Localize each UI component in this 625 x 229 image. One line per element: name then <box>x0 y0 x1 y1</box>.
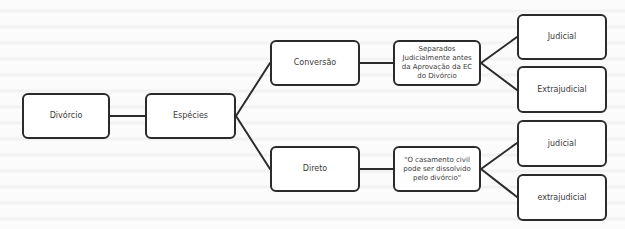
node-label: Espécies <box>173 111 208 121</box>
edge-casamento-judicial <box>481 143 517 169</box>
node-label: Direto <box>303 164 327 174</box>
node-label: judicial <box>548 139 576 149</box>
edge-especies-direto <box>236 116 270 169</box>
node-label: Extrajudicial <box>537 85 586 95</box>
node-especies: Espécies <box>145 93 236 139</box>
node-judicial-upper: Judicial <box>517 14 607 60</box>
node-label: Judicial <box>548 32 576 42</box>
node-casamento: "O casamento civil pode ser dissolvido p… <box>393 146 481 192</box>
node-extrajudicial-upper: Extrajudicial <box>517 66 607 113</box>
node-label: Conversão <box>294 58 336 68</box>
edge-separados-judicial <box>481 37 517 63</box>
node-divorcio: Divórcio <box>22 93 110 139</box>
node-conversao: Conversão <box>270 40 360 86</box>
edge-separados-extrajudicial <box>481 63 517 90</box>
node-separados: Separados Judicialmente antes da Aprovaç… <box>393 40 481 86</box>
node-extrajudicial-lower: extrajudicial <box>517 174 607 221</box>
edge-especies-conversao <box>236 63 270 116</box>
node-label: Divórcio <box>50 111 83 121</box>
edge-casamento-extrajudicial <box>481 169 517 197</box>
node-label: "O casamento civil pode ser dissolvido p… <box>398 156 476 183</box>
node-judicial-lower: judicial <box>517 120 607 167</box>
node-direto: Direto <box>270 146 360 192</box>
node-label: extrajudicial <box>537 193 586 203</box>
node-label: Separados Judicialmente antes da Aprovaç… <box>398 45 476 81</box>
